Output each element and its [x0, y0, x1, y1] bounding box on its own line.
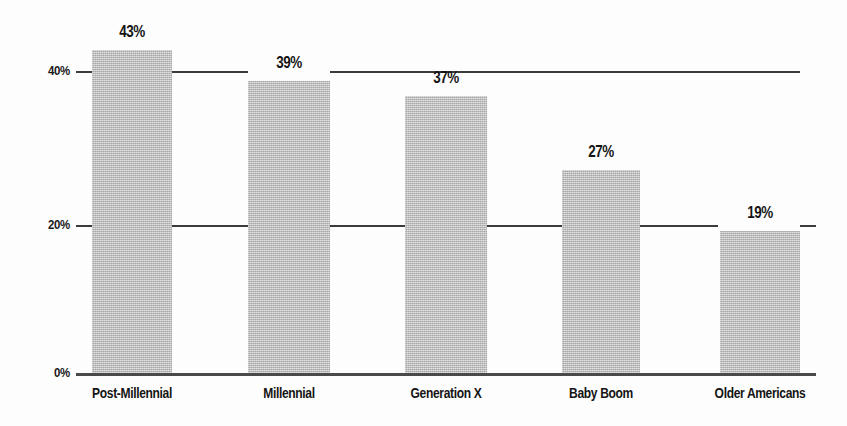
bar-value-label-baby-boom: 27% — [568, 143, 634, 161]
bar-value-label-generation-x: 37% — [412, 69, 481, 87]
gridline-40-seg-1 — [172, 71, 248, 73]
category-label-millennial: Millennial — [229, 385, 349, 401]
gridline-20-seg-1 — [172, 225, 248, 227]
category-label-older-americans: Older Americans — [700, 385, 820, 401]
plot-area: 40% 20% 0% 43% 39% 37% 27% 19% Post-Mill… — [0, 0, 847, 426]
bar-older-americans[interactable] — [720, 231, 800, 373]
y-axis-label-20: 20% — [15, 217, 70, 232]
gridline-20-seg-5 — [800, 225, 816, 227]
bar-value-label-millennial: 39% — [255, 54, 324, 72]
gridline-20-seg-2 — [330, 225, 405, 227]
bar-millennial[interactable] — [248, 81, 330, 373]
y-axis-label-0: 0% — [15, 365, 70, 380]
gridline-40-seg-2 — [330, 71, 800, 73]
x-axis-baseline — [76, 373, 816, 376]
category-label-post-millennial: Post-Millennial — [72, 385, 192, 401]
bar-generation-x[interactable] — [405, 96, 487, 373]
bar-chart: 40% 20% 0% 43% 39% 37% 27% 19% Post-Mill… — [0, 0, 847, 426]
category-label-generation-x: Generation X — [386, 385, 506, 401]
gridline-20-seg-4 — [640, 225, 718, 227]
y-axis-label-40: 40% — [15, 63, 70, 78]
bar-value-label-older-americans: 19% — [726, 204, 793, 222]
bar-baby-boom[interactable] — [562, 170, 640, 373]
y-tick-20-mark — [76, 225, 92, 227]
category-label-baby-boom: Baby Boom — [541, 385, 661, 401]
y-tick-40-mark — [76, 71, 92, 73]
gridline-20-seg-3 — [487, 225, 562, 227]
bar-post-millennial[interactable] — [92, 50, 172, 373]
bar-value-label-post-millennial: 43% — [98, 23, 165, 41]
